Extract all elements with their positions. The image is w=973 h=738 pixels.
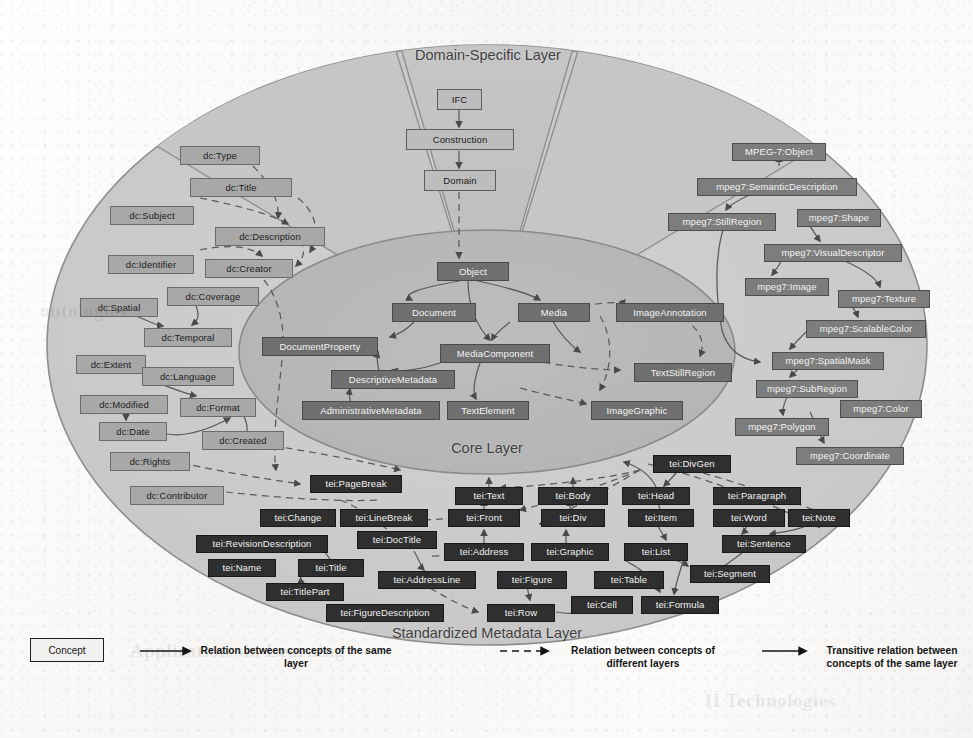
node-tei-formula: tei:Formula <box>641 596 719 614</box>
node-tei-text: tei:Text <box>455 487 523 505</box>
node-tei-pagebreak: tei:PageBreak <box>310 475 402 493</box>
node-mpeg7-coordinate: mpeg7:Coordinate <box>796 447 904 465</box>
node-imageannotation: ImageAnnotation <box>616 303 724 322</box>
node-object: Object <box>437 262 509 281</box>
node-imagegraphic: ImageGraphic <box>591 401 683 420</box>
node-tei-sentence: tei:Sentence <box>722 535 806 553</box>
node-dc-spatial: dc:Spatial <box>80 298 158 317</box>
node-tei-figuredescription: tei:FigureDescription <box>326 604 444 622</box>
node-tei-revisiondescription: tei:RevisionDescription <box>196 535 328 553</box>
node-tei-note: tei:Note <box>788 509 850 527</box>
node-mpeg7-subregion: mpeg7:SubRegion <box>756 380 858 398</box>
node-tei-divgen: tei:DivGen <box>653 455 731 473</box>
node-dc-identifier: dc:Identifier <box>108 255 194 274</box>
node-dc-subject: dc:Subject <box>110 206 194 225</box>
node-mpeg7-visualdescriptor: mpeg7:VisualDescriptor <box>764 244 902 262</box>
node-dc-coverage: dc:Coverage <box>167 287 259 306</box>
node-textstillregion: TextStillRegion <box>634 363 732 382</box>
node-tei-cell: tei:Cell <box>571 596 633 614</box>
node-mpeg7-polygon: mpeg7:Polygon <box>735 418 829 436</box>
node-mpeg7-shape: mpeg7:Shape <box>797 209 881 227</box>
node-mpeg-7-object: MPEG-7:Object <box>732 143 826 161</box>
node-dc-temporal: dc:Temporal <box>144 328 232 347</box>
node-mpeg7-semanticdescription: mpeg7:SemanticDescription <box>697 178 857 196</box>
node-tei-row: tei:Row <box>487 604 555 622</box>
node-tei-name: tei:Name <box>208 559 276 577</box>
node-construction: Construction <box>406 129 514 150</box>
node-textelement: TextElement <box>447 401 529 420</box>
node-tei-div: tei:Div <box>541 509 605 527</box>
node-tei-word: tei:Word <box>713 509 785 527</box>
node-tei-address: tei:Address <box>444 543 524 561</box>
node-dc-format: dc:Format <box>180 398 256 417</box>
node-mpeg7-spatialmask: mpeg7:SpatialMask <box>772 352 884 370</box>
node-tei-head: tei:Head <box>622 487 690 505</box>
node-tei-body: tei:Body <box>538 487 608 505</box>
node-mpeg7-color: mpeg7:Color <box>840 400 922 418</box>
node-tei-title: tei:Title <box>298 559 364 577</box>
node-tei-list: tei:List <box>624 543 688 561</box>
node-tei-addressline: tei:AddressLine <box>378 571 476 589</box>
node-document: Document <box>392 303 476 322</box>
node-media: Media <box>518 303 590 322</box>
node-mpeg7-scalablecolor: mpeg7:ScalableColor <box>806 320 926 338</box>
node-dc-date: dc:Date <box>99 422 167 441</box>
node-dc-creator: dc:Creator <box>205 259 293 278</box>
node-descriptivemetadata: DescriptiveMetadata <box>331 370 455 389</box>
node-mpeg7-image: mpeg7:Image <box>745 278 829 296</box>
node-tei-paragraph: tei:Paragraph <box>713 487 801 505</box>
node-dc-contributor: dc:Contributor <box>130 486 224 505</box>
node-tei-titlepart: tei:TitlePart <box>266 583 344 601</box>
node-dc-modified: dc:Modified <box>80 395 168 414</box>
figure-canvas: Domain-Specific Layer Core Layer Standar… <box>0 0 973 738</box>
node-documentproperty: DocumentProperty <box>262 337 378 356</box>
node-dc-description: dc:Description <box>215 227 325 246</box>
node-tei-segment: tei:Segment <box>690 565 770 583</box>
node-dc-title: dc:Title <box>190 178 292 197</box>
node-dc-created: dc:Created <box>202 431 284 450</box>
node-dc-type: dc:Type <box>180 146 260 165</box>
node-tei-table: tei:Table <box>594 571 664 589</box>
node-administrativemetadata: AdministrativeMetadata <box>302 401 440 420</box>
node-tei-graphic: tei:Graphic <box>531 543 609 561</box>
node-tei-linebreak: tei:LineBreak <box>340 509 428 527</box>
node-tei-doctitle: tei:DocTitle <box>357 531 437 549</box>
node-dc-extent: dc:Extent <box>76 355 146 374</box>
node-tei-front: tei:Front <box>448 509 520 527</box>
node-dc-language: dc:Language <box>142 367 234 386</box>
node-tei-item: tei:Item <box>628 509 694 527</box>
node-tei-change: tei:Change <box>260 509 336 527</box>
node-mpeg7-texture: mpeg7:Texture <box>838 290 930 308</box>
node-tei-figure: tei:Figure <box>497 571 567 589</box>
node-mediacomponent: MediaComponent <box>440 344 550 363</box>
node-ifc: IFC <box>437 89 482 110</box>
node-mpeg7-stillregion: mpeg7:StillRegion <box>668 213 776 231</box>
node-dc-rights: dc:Rights <box>110 452 190 471</box>
node-domain: Domain <box>424 170 496 191</box>
